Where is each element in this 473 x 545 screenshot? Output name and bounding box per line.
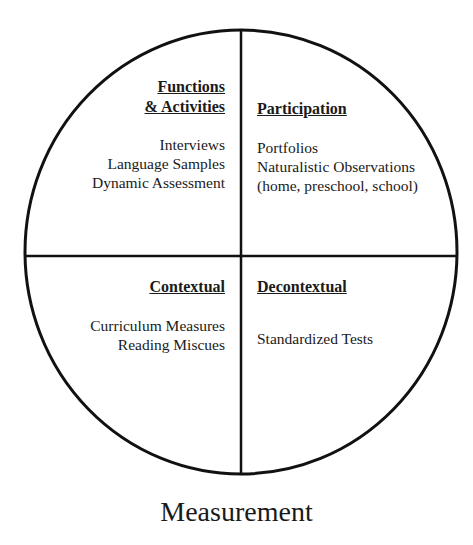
list-item: Portfolios xyxy=(257,138,418,157)
quadrant-heading: Contextual xyxy=(90,277,225,297)
list-item: Dynamic Assessment xyxy=(92,173,225,192)
quadrant-items: Curriculum Measures Reading Miscues xyxy=(90,316,225,354)
quadrant-items: Interviews Language Samples Dynamic Asse… xyxy=(92,135,225,192)
list-item: Curriculum Measures xyxy=(90,316,225,335)
heading-line: & Activities xyxy=(92,97,225,117)
list-item: Interviews xyxy=(92,135,225,154)
list-item: Naturalistic Observations xyxy=(257,157,418,176)
heading-line: Contextual xyxy=(90,277,225,297)
heading-line: Participation xyxy=(257,99,418,119)
quadrant-heading: Decontextual xyxy=(257,277,373,297)
quadrant-functions-activities: Functions & Activities Interviews Langua… xyxy=(92,77,225,192)
list-item: Language Samples xyxy=(92,154,225,173)
quadrant-contextual: Contextual Curriculum Measures Reading M… xyxy=(90,277,225,354)
list-item: (home, preschool, school) xyxy=(257,176,418,195)
quadrant-circle xyxy=(0,0,473,545)
quadrant-heading: Functions & Activities xyxy=(92,77,225,116)
list-item: Standardized Tests xyxy=(257,329,373,348)
heading-line: Functions xyxy=(92,77,225,97)
quadrant-participation: Participation Portfolios Naturalistic Ob… xyxy=(257,99,418,195)
quadrant-items: Portfolios Naturalistic Observations (ho… xyxy=(257,138,418,195)
list-item: Reading Miscues xyxy=(90,335,225,354)
quadrant-heading: Participation xyxy=(257,99,418,119)
heading-line: Decontextual xyxy=(257,277,373,297)
quadrant-decontextual: Decontextual Standardized Tests xyxy=(257,277,373,348)
quadrant-items: Standardized Tests xyxy=(257,329,373,348)
diagram-caption: Measurement xyxy=(0,496,473,528)
